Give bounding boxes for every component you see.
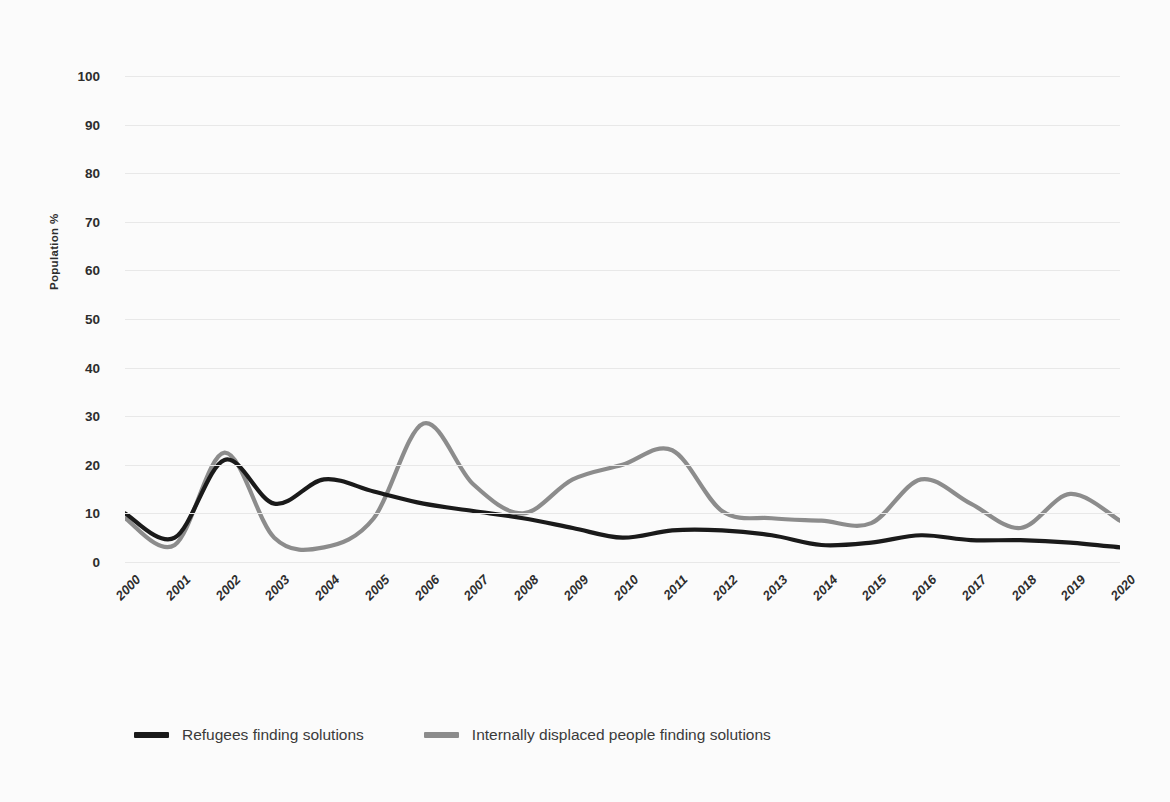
x-axis-tick-label: 2016 bbox=[895, 572, 940, 617]
x-axis-tick-label: 2018 bbox=[995, 572, 1040, 617]
gridline bbox=[125, 173, 1120, 174]
legend-label-idp: Internally displaced people finding solu… bbox=[472, 726, 771, 744]
gridline bbox=[125, 270, 1120, 271]
chart-legend: Refugees finding solutions Internally di… bbox=[134, 726, 771, 744]
y-axis-title: Population % bbox=[48, 214, 60, 290]
x-axis-tick-label: 2013 bbox=[746, 572, 791, 617]
y-axis-tick-label: 20 bbox=[38, 457, 100, 472]
legend-label-refugees: Refugees finding solutions bbox=[182, 726, 364, 744]
legend-swatch-refugees bbox=[134, 732, 169, 738]
legend-item-idp[interactable]: Internally displaced people finding solu… bbox=[424, 726, 771, 744]
legend-item-refugees[interactable]: Refugees finding solutions bbox=[134, 726, 364, 744]
x-axis-tick-label: 2008 bbox=[497, 572, 542, 617]
x-axis-tick-label: 2010 bbox=[597, 572, 642, 617]
x-axis-tick-label: 2006 bbox=[398, 572, 443, 617]
legend-swatch-idp bbox=[424, 732, 459, 738]
gridline bbox=[125, 368, 1120, 369]
x-axis-tick-label: 2003 bbox=[248, 572, 293, 617]
x-axis-tick-label: 2009 bbox=[547, 572, 592, 617]
plot-area bbox=[125, 76, 1120, 562]
y-axis-tick-label: 0 bbox=[38, 555, 100, 570]
x-axis-tick-label: 2004 bbox=[298, 572, 343, 617]
gridline bbox=[125, 465, 1120, 466]
line-chart: Population % 0102030405060708090100 2000… bbox=[0, 0, 1170, 802]
x-axis-tick-label: 2000 bbox=[99, 572, 144, 617]
gridline bbox=[125, 416, 1120, 417]
x-axis-tick-label: 2020 bbox=[1094, 572, 1139, 617]
y-axis-tick-label: 10 bbox=[38, 506, 100, 521]
y-axis-tick-label: 90 bbox=[38, 117, 100, 132]
x-axis-tick-label: 2011 bbox=[646, 572, 691, 617]
gridline bbox=[125, 319, 1120, 320]
x-axis-tick-label: 2005 bbox=[348, 572, 393, 617]
x-axis-tick-label: 2001 bbox=[149, 572, 194, 617]
gridline bbox=[125, 222, 1120, 223]
x-axis-tick-label: 2014 bbox=[796, 572, 841, 617]
x-axis-tick-label: 2015 bbox=[845, 572, 890, 617]
x-axis-tick-label: 2012 bbox=[696, 572, 741, 617]
x-axis-tick-label: 2019 bbox=[1044, 572, 1089, 617]
y-axis-tick-label: 80 bbox=[38, 166, 100, 181]
y-axis-tick-label: 100 bbox=[38, 69, 100, 84]
y-axis-tick-label: 30 bbox=[38, 409, 100, 424]
y-axis-tick-label: 50 bbox=[38, 312, 100, 327]
x-axis-tick-label: 2007 bbox=[447, 572, 492, 617]
x-axis-tick-label: 2002 bbox=[199, 572, 244, 617]
x-axis-tick-label: 2017 bbox=[945, 572, 990, 617]
y-axis-tick-label: 40 bbox=[38, 360, 100, 375]
gridline bbox=[125, 562, 1120, 563]
gridline bbox=[125, 513, 1120, 514]
series-line-idp bbox=[125, 423, 1120, 550]
gridline bbox=[125, 76, 1120, 77]
gridline bbox=[125, 125, 1120, 126]
